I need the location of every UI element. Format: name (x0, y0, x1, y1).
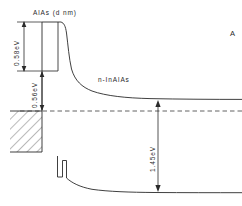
band-offset-label: 0.56eV (32, 82, 39, 108)
barrier-height-label: 0.58eV (14, 40, 21, 66)
metal-contact-region (10, 111, 42, 152)
barrier-material-label: AlAs (d nm) (33, 10, 77, 17)
barrier-height-arrow (17, 21, 42, 72)
figure-corner-marker: A (230, 30, 235, 38)
bulk-material-label: n-InAlAs (98, 77, 130, 84)
band-offset-arrow (40, 71, 45, 111)
barrier-inner-edge (42, 22, 58, 71)
band-diagram-figure: AlAs (d nm) n-InAlAs 0.58eV 0.56eV 1.45e… (0, 0, 242, 206)
conduction-band-curve (42, 22, 242, 111)
band-gap-label: 1.45eV (150, 146, 157, 172)
